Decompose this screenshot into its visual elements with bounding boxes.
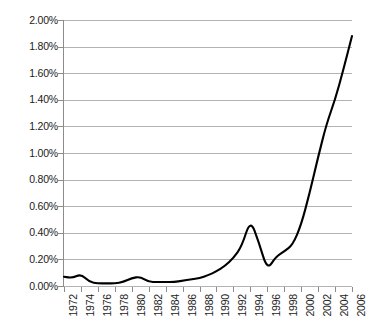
x-axis-tick-label: 1992 xyxy=(237,294,248,317)
x-axis-tick-label: 1976 xyxy=(102,294,113,317)
y-axis-tick xyxy=(57,20,64,21)
x-axis-tick-label: 1994 xyxy=(254,294,265,317)
x-axis-tick xyxy=(183,287,184,292)
x-axis-tick xyxy=(64,287,65,292)
x-axis-tick-label: 2000 xyxy=(305,294,316,317)
x-axis-tick xyxy=(81,287,82,292)
x-axis-tick-label: 1982 xyxy=(153,294,164,317)
y-axis-tick xyxy=(57,286,64,287)
x-axis-tick-label: 2004 xyxy=(339,294,350,317)
x-axis-tick xyxy=(301,287,302,292)
x-axis-tick-label: 1990 xyxy=(220,294,231,317)
y-axis-tick xyxy=(57,206,64,207)
y-axis-tick xyxy=(57,153,64,154)
x-axis-tick xyxy=(233,287,234,292)
x-axis-tick-label: 1988 xyxy=(204,294,215,317)
y-axis-tick xyxy=(57,180,64,181)
x-axis-tick-label: 2002 xyxy=(322,294,333,317)
x-axis-tick-label: 1986 xyxy=(187,294,198,317)
x-axis-tick-label: 1972 xyxy=(68,294,79,317)
x-axis-tick-label: 1978 xyxy=(119,294,130,317)
x-axis-tick xyxy=(250,287,251,292)
x-axis-tick xyxy=(115,287,116,292)
y-axis-tick xyxy=(57,126,64,127)
x-axis-tick xyxy=(284,287,285,292)
x-axis-tick xyxy=(267,287,268,292)
x-axis-tick xyxy=(132,287,133,292)
x-axis-tick-label: 1974 xyxy=(85,294,96,317)
x-axis-tick xyxy=(98,287,99,292)
x-axis-tick-label: 1980 xyxy=(136,294,147,317)
x-axis-tick xyxy=(200,287,201,292)
y-axis-tick xyxy=(57,100,64,101)
x-axis-tick-label: 1996 xyxy=(271,294,282,317)
x-axis-tick xyxy=(335,287,336,292)
x-axis-tick-label: 2006 xyxy=(356,294,367,317)
y-axis-tick xyxy=(57,73,64,74)
x-axis-tick xyxy=(149,287,150,292)
y-axis-tick xyxy=(57,47,64,48)
y-axis-tick xyxy=(57,259,64,260)
x-axis-tick xyxy=(166,287,167,292)
y-axis-tick xyxy=(57,233,64,234)
x-axis-tick-label: 1984 xyxy=(170,294,181,317)
x-axis-tick-label: 1998 xyxy=(288,294,299,317)
x-axis-tick xyxy=(318,287,319,292)
x-axis-tick xyxy=(216,287,217,292)
x-axis-tick xyxy=(352,287,353,292)
